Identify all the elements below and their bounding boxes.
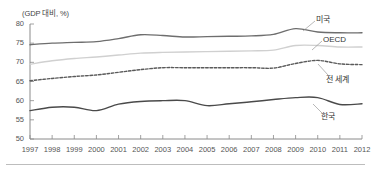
x-tick-label: 2012 (349, 146, 371, 154)
y-tick-label: 80 (8, 20, 24, 28)
chart-container: (GDP 대비, %) 80757065605550 1997199819992… (0, 0, 371, 171)
series-label-world: 전 세계 (326, 75, 349, 84)
series-line-미국 (30, 29, 362, 45)
y-tick-label: 75 (8, 39, 24, 47)
leader-line-usa (303, 21, 315, 31)
x-tick-marks (30, 135, 362, 139)
series-label-usa: 미국 (316, 15, 330, 24)
y-tick-label: 60 (8, 97, 24, 105)
series-label-korea: 한국 (321, 112, 335, 121)
y-tick-label: 70 (8, 58, 24, 66)
series-line-한국 (30, 97, 362, 111)
y-tick-label: 55 (8, 116, 24, 124)
y-tick-label: 65 (8, 78, 24, 86)
series-label-oecd: OECD (323, 35, 346, 44)
series-line-OECD (30, 45, 362, 64)
y-tick-label: 50 (8, 135, 24, 143)
leader-line-world (318, 64, 328, 75)
series-lines (30, 29, 362, 111)
y-tick-marks (30, 24, 34, 139)
series-line-전 세계 (30, 60, 362, 80)
bottom-divider (6, 164, 365, 165)
axes (30, 24, 362, 139)
